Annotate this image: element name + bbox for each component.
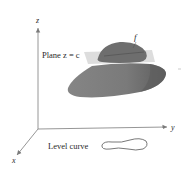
z-axis-label: z <box>35 16 40 25</box>
surface-cap <box>98 42 147 63</box>
level-curve-diagram: z y x f Plane z = c Level curve <box>0 0 192 178</box>
x-axis <box>17 129 38 155</box>
plane-label: Plane z = c <box>42 50 80 60</box>
x-axis-label: x <box>11 156 16 165</box>
surface-label-f: f <box>134 32 138 42</box>
level-curve-shape <box>102 139 147 150</box>
y-axis-label: y <box>170 123 175 132</box>
surface-body <box>68 63 166 97</box>
level-curve-label: Level curve <box>48 141 89 151</box>
y-axis <box>38 127 167 129</box>
